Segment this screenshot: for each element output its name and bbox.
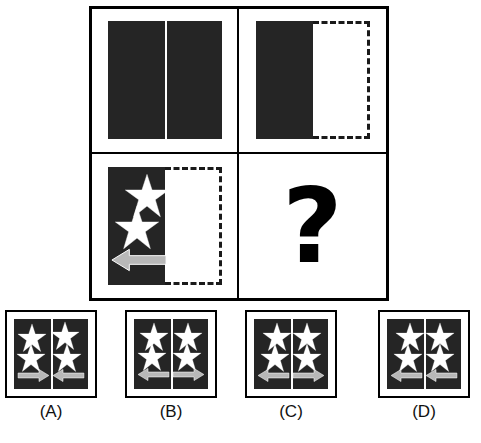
matrix-cell-4-answer-slot[interactable]: ? [239,154,386,299]
arrow-left-icon [390,367,423,384]
answer-options-row: (A) [0,310,481,443]
option-b-label: (B) [125,402,217,422]
answer-option-b[interactable]: (B) [125,310,217,422]
figure-cell-1 [108,21,222,139]
answer-option-a[interactable]: (A) [5,310,97,422]
cell1-left-half [108,21,165,139]
matrix-row-1 [92,9,386,154]
option-d-box[interactable] [378,310,470,398]
star-icon [114,205,160,251]
matrix-cell-2[interactable] [239,9,386,152]
figure-cell-2 [256,21,370,139]
question-mark: ? [282,174,342,278]
cell2-left-half [256,21,313,139]
arrow-right-icon [17,367,50,384]
option-b-figure [134,319,208,389]
arrow-right-icon [292,367,325,384]
arrow-left-icon [257,367,290,384]
arrow-left-icon [52,367,85,384]
arrow-right-icon [172,366,205,383]
matrix-cell-3[interactable] [92,154,239,299]
cell2-right-half [313,21,370,139]
option-a-figure [14,319,88,389]
arrow-left-icon [137,366,170,383]
option-c-box[interactable] [245,310,337,398]
option-a-box[interactable] [5,310,97,398]
option-c-label: (C) [245,402,337,422]
option-b-box[interactable] [125,310,217,398]
arrow-left-icon [425,367,458,384]
answer-option-c[interactable]: (C) [245,310,337,422]
cell1-right-half [165,21,222,139]
figure-cell-3 [108,167,222,285]
option-d-label: (D) [378,402,470,422]
option-a-label: (A) [5,402,97,422]
answer-option-d[interactable]: (D) [378,310,470,422]
option-d-figure [387,319,461,389]
cell3-right-half [165,167,222,285]
matrix-row-2: ? [92,154,386,299]
arrow-left-icon [110,247,168,273]
matrix-cell-1[interactable] [92,9,239,152]
matrix-panel: ? [89,6,389,301]
option-c-figure [254,319,328,389]
